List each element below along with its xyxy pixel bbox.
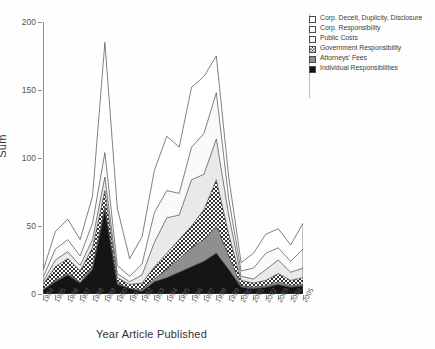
chart-legend: Corp. Deceit, Duplicity, DisclosureCorp.… [309, 14, 435, 74]
light-gray-square-icon [309, 36, 316, 43]
y-axis: 050100150200 [0, 0, 36, 349]
y-axis-tick-label: 0 [31, 289, 36, 299]
legend-item[interactable]: Attorneys' Fees [309, 54, 435, 63]
y-axis-tick [38, 158, 42, 159]
y-axis-tick [38, 90, 42, 91]
legend-item[interactable]: Corp. Responsibility [309, 24, 435, 33]
y-axis-tick [38, 294, 42, 295]
plot-area [43, 22, 303, 294]
legend-item-label: Attorneys' Fees [320, 54, 367, 62]
y-axis-tick-label: 50 [27, 221, 36, 231]
y-axis-tick-label: 100 [22, 153, 36, 163]
legend-item[interactable]: Corp. Deceit, Duplicity, Disclosure [309, 14, 435, 23]
white-square-icon [309, 16, 316, 23]
checkered-square-icon [309, 46, 316, 53]
gray-square-icon [309, 56, 316, 63]
white-square-icon [309, 26, 316, 33]
x-axis-title: Year Article Published [0, 328, 303, 340]
y-axis-tick [38, 22, 42, 23]
legend-item-label: Corp. Deceit, Duplicity, Disclosure [320, 14, 422, 22]
y-axis-tick-label: 200 [22, 17, 36, 27]
legend-item-label: Public Costs [320, 34, 358, 42]
chart-figure: 050100150200 Sum Year Article Published … [0, 0, 435, 349]
y-axis-title: Sum [0, 134, 8, 158]
legend-item[interactable]: Public Costs [309, 34, 435, 43]
legend-item-label: Government Responsibility [320, 44, 401, 52]
legend-item[interactable]: Government Responsibility [309, 44, 435, 53]
legend-item-label: Corp. Responsibility [320, 24, 380, 32]
legend-item[interactable]: Individual Responsibilities [309, 64, 435, 73]
black-square-icon [309, 66, 316, 73]
y-axis-tick [38, 226, 42, 227]
y-axis-tick-label: 150 [22, 85, 36, 95]
legend-item-label: Individual Responsibilities [320, 64, 398, 72]
stacked-area-series [43, 22, 303, 294]
